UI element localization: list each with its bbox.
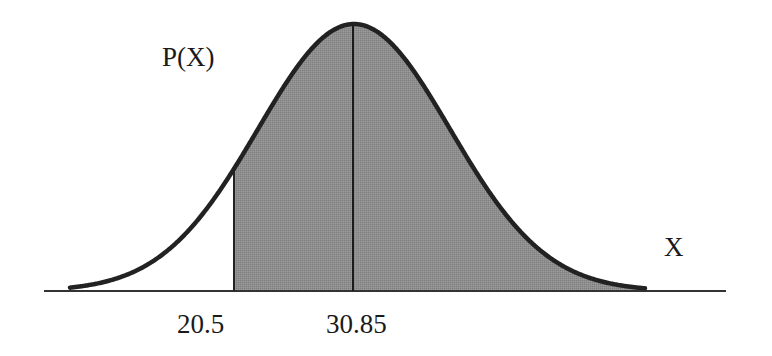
shaded-area: [234, 24, 645, 291]
chart-canvas: P(X) X 20.5 30.85: [0, 0, 772, 356]
tick-label-20-5: 20.5: [177, 309, 224, 339]
normal-distribution-chart: P(X) X 20.5 30.85: [0, 0, 772, 356]
tick-label-mean: 30.85: [326, 309, 387, 339]
y-axis-label: P(X): [162, 42, 215, 72]
x-axis-label: X: [664, 232, 684, 262]
